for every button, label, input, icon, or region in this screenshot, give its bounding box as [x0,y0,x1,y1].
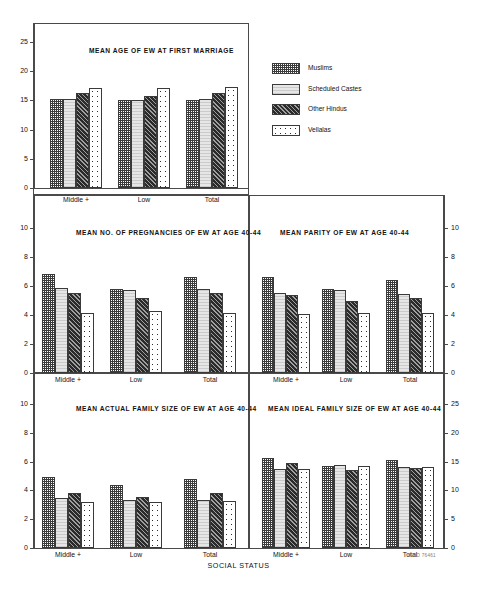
legend-label: Other Hindus [308,105,347,112]
bar-muslims [322,466,334,548]
bar-scheduled [334,465,346,548]
bar-vellalas [358,466,370,548]
bar-muslims [386,460,398,548]
bar-scheduled [398,467,410,548]
category-label: Low [310,551,382,558]
x-axis-line [250,548,444,549]
legend-label: Vellalas [308,126,331,133]
y-axis-line [444,373,445,548]
x-axis-title: SOCIAL STATUS [0,561,477,570]
chart-panel-mean-ideal-family-size: MEAN IDEAL FAMILY SIZE OF EW AT AGE 40-4… [0,0,477,589]
y-tick-label: 20 [451,429,459,436]
figure-credit: WHO 76461 [408,553,436,558]
legend-swatch-muslims [272,63,300,74]
bar-scheduled [274,469,286,548]
y-tick-label: 25 [451,400,459,407]
panel-title: MEAN IDEAL FAMILY SIZE OF EW AT AGE 40-4… [268,405,441,412]
legend-label: Scheduled Castes [308,85,362,92]
bar-hindus [346,470,358,548]
y-tick-label: 0 [451,544,455,551]
legend-swatch-hindus [272,104,300,115]
y-tick-label: 15 [451,458,459,465]
bar-vellalas [422,467,434,548]
y-tick [444,548,448,549]
legend-label: Muslims [308,64,332,71]
y-tick-label: 10 [451,486,459,493]
bar-muslims [262,458,274,548]
figure-canvas: MEAN AGE OF EW AT FIRST MARRIAGE05101520… [0,0,477,589]
bar-hindus [286,463,298,548]
legend-swatch-vellalas [272,125,300,136]
bar-vellalas [298,469,310,548]
legend-swatch-scheduled [272,84,300,95]
y-tick-label: 5 [451,515,455,522]
bar-hindus [410,468,422,548]
